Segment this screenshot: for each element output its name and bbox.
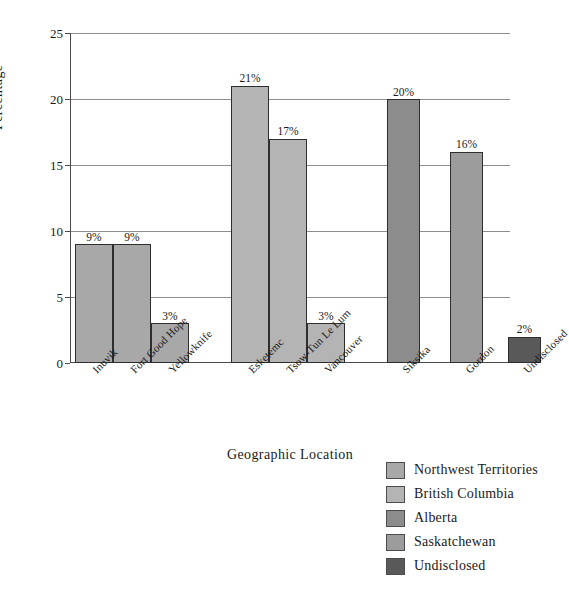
- gridline-20: [70, 99, 510, 100]
- y-tick-label-25: 25: [23, 27, 63, 40]
- bar-value-label: 9%: [124, 232, 139, 244]
- bar-value-label: 20%: [393, 87, 414, 99]
- legend-label: Saskatchewan: [414, 534, 496, 550]
- y-tick-label-20: 20: [23, 93, 63, 106]
- gridline-25: [70, 33, 510, 34]
- bar: 9%: [113, 244, 151, 363]
- bar-value-label: 17%: [277, 126, 298, 138]
- legend-label: Alberta: [414, 510, 457, 526]
- legend-color-swatch: [386, 486, 405, 503]
- y-tick-label-10: 10: [23, 225, 63, 238]
- bar: 20%: [387, 99, 420, 363]
- y-tick-label-15: 15: [23, 159, 63, 172]
- bar-value-label: 16%: [456, 139, 477, 151]
- bar-value-label: 21%: [239, 73, 260, 85]
- chart-title-cropped: [70, 0, 510, 4]
- legend-label: Northwest Territories: [414, 462, 538, 478]
- legend-color-swatch: [386, 510, 405, 527]
- bar-chart-figure: Percentage 0510152025 9%9%3%21%17%3%20%1…: [0, 0, 569, 601]
- y-tick-label-0: 0: [23, 357, 63, 370]
- bar: 21%: [231, 86, 269, 363]
- y-axis-line: [70, 33, 71, 363]
- legend-label: British Columbia: [414, 486, 514, 502]
- bar: 9%: [75, 244, 113, 363]
- legend-item: Undisclosed: [386, 554, 538, 578]
- y-tick-label-5: 5: [23, 291, 63, 304]
- legend-color-swatch: [386, 534, 405, 551]
- plot-area: 9%9%3%21%17%3%20%16%2%: [70, 33, 510, 363]
- legend-item: Alberta: [386, 506, 538, 530]
- legend-item: Saskatchewan: [386, 530, 538, 554]
- bar: 16%: [450, 152, 483, 363]
- legend-color-swatch: [386, 558, 405, 575]
- legend-item: Northwest Territories: [386, 458, 538, 482]
- legend-label: Undisclosed: [414, 558, 485, 574]
- bar: 17%: [269, 139, 307, 363]
- y-tick-mark-0: [65, 363, 70, 364]
- bar-value-label: 9%: [86, 232, 101, 244]
- y-axis-title: Percentage: [0, 65, 6, 130]
- bar-value-label: 2%: [517, 324, 532, 336]
- legend-item: British Columbia: [386, 482, 538, 506]
- legend: Northwest TerritoriesBritish ColumbiaAlb…: [386, 458, 538, 578]
- legend-color-swatch: [386, 462, 405, 479]
